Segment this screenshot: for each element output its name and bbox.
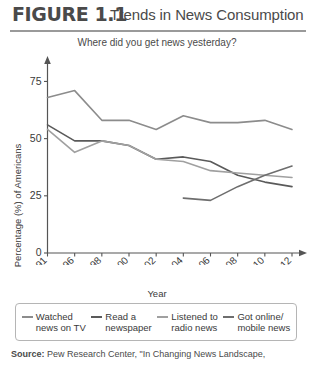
x-axis: 1991199619982000200220042006200820102012 <box>25 250 307 265</box>
x-axis-tick-labels: 1991199619982000200220042006200820102012 <box>25 254 293 265</box>
y-tick-label: 50 <box>30 132 42 144</box>
legend-entry-2[interactable]: Listened to radio news <box>157 311 217 334</box>
header-divider <box>10 30 306 32</box>
y-axis-title: Percentage (%) of Americans <box>12 121 23 291</box>
series-line-2 <box>48 129 293 177</box>
y-axis: 0255075 <box>30 56 51 258</box>
legend-swatch-icon <box>22 316 33 318</box>
x-tick-label: 2008 <box>216 254 240 265</box>
legend-label: Got online/ mobile news <box>237 311 290 334</box>
series-line-1 <box>48 125 293 187</box>
x-tick-label: 1996 <box>53 254 77 265</box>
y-tick-label: 25 <box>30 189 42 201</box>
chart-series-group <box>48 91 293 201</box>
legend-swatch-icon <box>223 316 234 318</box>
source-text: Pew Research Center, "In Changing News L… <box>45 349 266 359</box>
x-tick-label: 2010 <box>243 254 267 265</box>
legend-swatch-icon <box>91 316 102 318</box>
x-axis-title: Year <box>0 288 314 299</box>
x-tick-label: 2012 <box>270 254 294 265</box>
series-line-0 <box>48 91 293 130</box>
figure-header: FIGURE 1.1 Trends in News Consumption <box>0 0 314 33</box>
chart-legend: Watched news on TVRead a newspaperListen… <box>15 303 297 341</box>
x-tick-label: 1998 <box>80 254 104 265</box>
legend-label: Read a newspaper <box>105 311 151 334</box>
x-tick-label: 2000 <box>107 254 131 265</box>
legend-entry-0[interactable]: Watched news on TV <box>22 311 86 334</box>
chart-plot-area: 0255075 19911996199820002002200420062008… <box>0 50 314 265</box>
x-tick-label: 2002 <box>134 254 158 265</box>
line-chart-svg: 0255075 19911996199820002002200420062008… <box>0 50 314 265</box>
x-tick-label: 2004 <box>161 254 185 265</box>
source-note: Source: Pew Research Center, "In Changin… <box>11 349 311 360</box>
source-prefix: Source: <box>11 349 45 359</box>
legend-label: Watched news on TV <box>36 311 86 334</box>
legend-label: Listened to radio news <box>171 311 217 334</box>
legend-entry-3[interactable]: Got online/ mobile news <box>223 311 290 334</box>
figure-title: Trends in News Consumption <box>110 6 304 23</box>
y-axis-tick-labels: 0255075 <box>30 75 42 259</box>
legend-entry-1[interactable]: Read a newspaper <box>91 311 151 334</box>
y-tick-label: 75 <box>30 75 42 87</box>
legend-swatch-icon <box>157 316 168 318</box>
x-tick-label: 2006 <box>188 254 212 265</box>
chart-subtitle: Where did you get news yesterday? <box>0 37 314 48</box>
